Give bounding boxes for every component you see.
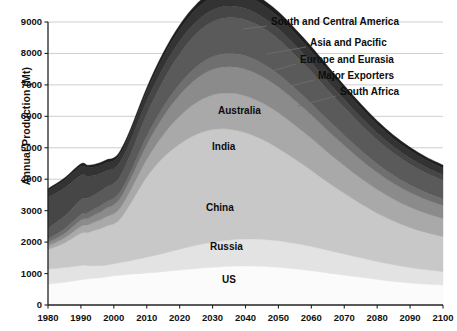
y-tick-label: 8000	[2, 47, 42, 58]
y-axis-label: Annual Production (Mt)	[20, 36, 32, 216]
x-tick-label: 2100	[423, 312, 457, 323]
y-tick-label: 1000	[2, 268, 42, 279]
stacked-area-chart: Annual Production (Mt) 01000200030004000…	[0, 0, 457, 331]
y-tick-label: 5000	[2, 142, 42, 153]
series-label-south-africa: South Africa	[340, 86, 399, 97]
series-label-us: US	[222, 274, 236, 285]
y-tick-label: 2000	[2, 236, 42, 247]
series-label-south-and-central-america: South and Central America	[271, 16, 399, 27]
series-label-europe-and-eurasia: Europe and Eurasia	[300, 54, 394, 65]
y-tick-label: 7000	[2, 79, 42, 90]
series-label-major-exporters: Major Exporters	[318, 70, 394, 81]
y-tick-label: 3000	[2, 205, 42, 216]
series-label-asia-and-pacific: Asia and Pacific	[310, 37, 387, 48]
y-tick-label: 4000	[2, 173, 42, 184]
series-label-russia: Russia	[210, 241, 243, 252]
series-label-australia: Australia	[218, 105, 261, 116]
y-tick-label: 0	[2, 299, 42, 310]
series-label-india: India	[212, 141, 235, 152]
series-label-china: China	[206, 202, 234, 213]
y-tick-label: 6000	[2, 110, 42, 121]
y-tick-label: 9000	[2, 16, 42, 27]
